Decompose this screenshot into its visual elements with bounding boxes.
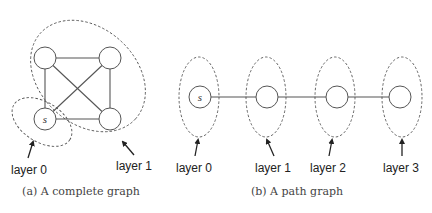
caption-b: (b) A path graph (251, 185, 343, 198)
layer-2-label: layer 2 (310, 161, 346, 175)
node-2 (326, 86, 348, 108)
layer-1-label: layer 1 (116, 159, 152, 173)
layer-1-region (8, 0, 167, 154)
caption-a: (a) A complete graph (22, 185, 140, 198)
arrow-layer-0 (195, 140, 198, 156)
arrow-layer-0 (28, 142, 33, 158)
arrow-layer-1 (123, 142, 134, 155)
arrow-layer-1 (267, 140, 274, 156)
source-node-label: s (198, 91, 202, 103)
source-node-label: s (43, 113, 47, 125)
layer-3-label: layer 3 (383, 161, 419, 175)
complete-graph-figure: s layer 0 layer 1 (a) A complete graph (3, 0, 167, 198)
node-top-right (99, 47, 121, 69)
layer-0-label: layer 0 (176, 161, 212, 175)
node-3 (389, 86, 411, 108)
path-graph-figure: s layer 0 layer 1 layer 2 layer 3 (b) A … (176, 57, 422, 198)
node-top-left (34, 47, 56, 69)
layer-1-label: layer 1 (255, 161, 291, 175)
node-bottom-right (99, 108, 121, 130)
figure-canvas: s layer 0 layer 1 (a) A complete graph s… (0, 0, 432, 213)
node-1 (256, 86, 278, 108)
arrow-layer-2 (329, 140, 332, 156)
layer-0-label: layer 0 (11, 163, 47, 177)
